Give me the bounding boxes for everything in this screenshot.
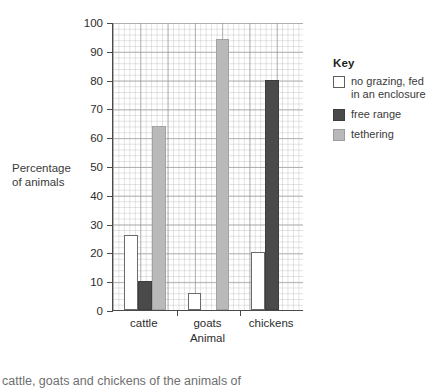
y-axis-tick-label: 20 bbox=[90, 246, 103, 261]
y-axis-title-line-2: of animals bbox=[12, 176, 104, 190]
legend-item-label: free range bbox=[351, 108, 401, 121]
y-axis-tick: 90 bbox=[107, 52, 113, 53]
bar bbox=[216, 39, 230, 310]
x-axis-category-label: goats bbox=[176, 316, 240, 330]
y-axis-tick: 70 bbox=[107, 109, 113, 110]
plot-area: 0102030405060708090100 bbox=[112, 23, 303, 311]
legend-swatch-white bbox=[333, 76, 345, 88]
bar bbox=[251, 252, 265, 310]
y-axis-tick-label: 40 bbox=[90, 189, 103, 204]
legend-item-label-line-1: tethering bbox=[351, 128, 394, 141]
y-axis-tick: 80 bbox=[107, 81, 113, 82]
bar bbox=[152, 126, 166, 310]
bar bbox=[138, 281, 152, 310]
legend-item: no grazing, fedin an enclosure bbox=[333, 75, 437, 101]
legend-item-label: tethering bbox=[351, 128, 394, 141]
bar bbox=[265, 80, 279, 310]
y-axis-tick-label: 90 bbox=[90, 45, 103, 60]
x-axis-category-label: cattle bbox=[112, 316, 176, 330]
bar bbox=[188, 293, 202, 310]
legend: Key no grazing, fedin an enclosurefree r… bbox=[333, 57, 437, 148]
x-axis-title: Animal bbox=[112, 332, 303, 344]
y-axis-tick: 100 bbox=[107, 23, 113, 24]
y-axis-tick: 50 bbox=[107, 167, 113, 168]
legend-item-label-line-2: in an enclosure bbox=[351, 88, 426, 101]
legend-item-label-line-1: free range bbox=[351, 108, 401, 121]
y-axis-tick-label: 70 bbox=[90, 102, 103, 117]
y-axis-tick-label: 100 bbox=[84, 16, 103, 31]
page-caption-text: cattle, goats and chickens of the animal… bbox=[2, 374, 437, 389]
y-axis-tick: 0 bbox=[107, 311, 113, 312]
y-axis-tick: 40 bbox=[107, 196, 113, 197]
legend-items: no grazing, fedin an enclosurefree range… bbox=[333, 75, 437, 141]
legend-swatch-light bbox=[333, 129, 345, 141]
legend-item-label: no grazing, fedin an enclosure bbox=[351, 75, 426, 101]
legend-title: Key bbox=[333, 57, 437, 69]
y-axis-tick-label: 10 bbox=[90, 275, 103, 290]
y-axis-tick-label: 80 bbox=[90, 74, 103, 89]
legend-item: tethering bbox=[333, 128, 437, 141]
bar bbox=[124, 235, 138, 310]
legend-item: free range bbox=[333, 108, 437, 121]
y-axis-tick-label: 30 bbox=[90, 218, 103, 233]
y-axis-tick: 20 bbox=[107, 253, 113, 254]
bar-chart: Percentage of animals 010203040506070809… bbox=[0, 0, 437, 389]
y-axis-tick-label: 50 bbox=[90, 160, 103, 175]
y-axis-tick: 60 bbox=[107, 138, 113, 139]
y-axis-tick-label: 60 bbox=[90, 131, 103, 146]
x-axis-category-label: chickens bbox=[239, 316, 303, 330]
y-axis-tick-label: 0 bbox=[97, 304, 103, 319]
page-caption: cattle, goats and chickens of the animal… bbox=[0, 374, 437, 389]
y-axis-tick: 10 bbox=[107, 282, 113, 283]
legend-swatch-dark bbox=[333, 109, 345, 121]
y-axis-tick: 30 bbox=[107, 225, 113, 226]
legend-item-label-line-1: no grazing, fed bbox=[351, 75, 426, 88]
